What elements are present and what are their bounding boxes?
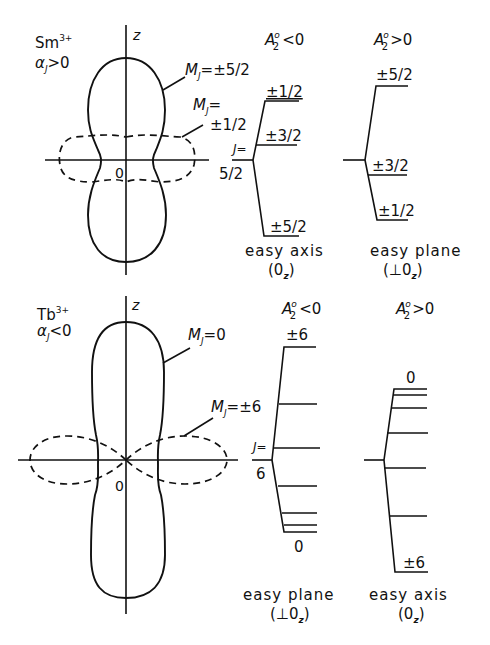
sm-right-label-2: ±3/2: [372, 157, 409, 175]
tb-left-caption2: (⊥0z): [270, 605, 310, 625]
tb-z-label: z: [131, 297, 140, 313]
sm-left-label-1: ±1/2: [266, 83, 303, 101]
sm-panel: Sm3+ αJ>0 z 0 MJ=±5/2 MJ= ±1/2 J= 5/2 Ao…: [35, 25, 462, 281]
sm-j-label: J=: [231, 142, 247, 156]
tb-right-caption2: (0z): [398, 605, 425, 625]
sm-left-label-3: ±5/2: [270, 218, 307, 236]
tb-origin-label: 0: [115, 478, 124, 494]
tb-solid-orbital-label: MJ=0: [188, 326, 226, 346]
tb-right-scheme: Ao2>0 0 ±6 easy axis (0z): [364, 299, 448, 625]
crystal-field-diagram: Sm3+ αJ>0 z 0 MJ=±5/2 MJ= ±1/2 J= 5/2 Ao…: [0, 0, 490, 645]
sm-solid-orbital-label: MJ=±5/2: [185, 61, 250, 81]
sm-right-level-1: [365, 86, 408, 160]
sm-origin-label: 0: [115, 165, 124, 181]
sm-right-caption2: (⊥0z): [383, 261, 423, 281]
sm-j-value: 5/2: [219, 165, 243, 183]
sm-right-label-1: ±5/2: [376, 66, 413, 84]
tb-right-title: Ao2>0: [395, 299, 434, 321]
tb-left-bottom-label: 0: [294, 538, 304, 556]
sm-dashed-orbital-label: MJ=: [193, 96, 221, 116]
sm-z-label: z: [132, 27, 141, 43]
tb-dashed-leader: [184, 418, 213, 436]
sm-right-scheme: Ao2>0 ±5/2 ±3/2 ±1/2 easy plane (⊥0z): [343, 30, 462, 281]
tb-j-label: J=: [251, 440, 267, 454]
sm-right-label-3: ±1/2: [378, 202, 415, 220]
sm-left-label-2: ±3/2: [265, 127, 302, 145]
sm-left-title: Ao2<0: [264, 30, 304, 52]
sm-dashed-orbital-value: ±1/2: [210, 116, 247, 134]
tb-right-bottom-label: ±6: [403, 554, 425, 572]
tb-left-top-label: ±6: [286, 326, 308, 344]
tb-right-top-label: 0: [406, 369, 416, 387]
tb-panel: Tb3+ αJ<0 z 0 MJ=0 MJ=±6 J= 6 Ao2<0 ±6: [18, 296, 448, 625]
tb-right-caption: easy axis: [369, 586, 448, 604]
tb-left-scheme: Ao2<0 ±6 0 easy plane (⊥0z): [243, 299, 335, 625]
sm-dashed-orbital: [59, 135, 194, 182]
sm-right-title: Ao2>0: [373, 30, 412, 52]
sm-ion-label: Sm3+: [35, 33, 72, 52]
tb-left-title: Ao2<0: [281, 299, 321, 321]
sm-dashed-leader: [182, 125, 203, 137]
sm-left-caption: easy axis: [245, 242, 324, 260]
sm-right-caption: easy plane: [370, 242, 462, 260]
sm-left-scheme: Ao2<0 ±1/2 ±3/2 ±5/2 easy axis (0z): [245, 30, 324, 281]
tb-left-caption: easy plane: [243, 586, 335, 604]
sm-alpha-label: αJ>0: [35, 54, 70, 74]
tb-right-level-top: [384, 389, 427, 460]
tb-alpha-label: αJ<0: [37, 322, 72, 342]
sm-solid-leader: [163, 77, 185, 90]
tb-dashed-orbital-label: MJ=±6: [211, 398, 261, 418]
tb-left-level-bottom: [272, 460, 317, 532]
tb-j-value: 6: [256, 465, 266, 483]
tb-solid-leader: [163, 348, 190, 363]
sm-left-caption2: (0z): [268, 261, 295, 281]
